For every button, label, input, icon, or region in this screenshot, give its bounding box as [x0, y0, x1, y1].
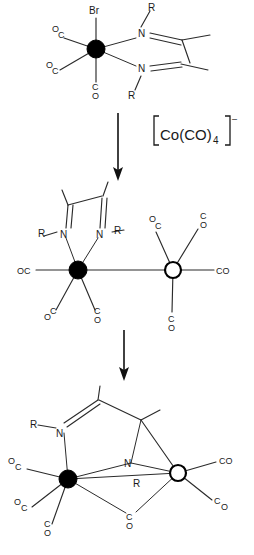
label-r-left: R — [38, 228, 45, 239]
label-c-up-left: C — [155, 221, 162, 231]
label-c-lower-left: C — [50, 306, 57, 316]
label-nitrogen-imine: N — [56, 428, 63, 439]
label-r-top: R — [30, 419, 37, 430]
label-o-3: O — [44, 528, 51, 538]
label-o-up-right: O — [200, 220, 207, 230]
reagent-label: Co(CO) 4 – — [154, 114, 237, 146]
label-r-bridge: R — [133, 478, 140, 489]
label-o-lower-right: O — [94, 315, 101, 325]
label-o-right-2: O — [221, 502, 228, 512]
label-nitrogen-right: N — [96, 229, 103, 240]
label-r-bottom: R — [128, 90, 135, 101]
reactant-diazadiene — [135, 11, 210, 90]
label-co-right-1: CO — [219, 456, 233, 466]
label-o-2: O — [14, 497, 21, 507]
scheme-canvas: Br O C O C C O N N R R Co(CO) 4 – — [0, 0, 254, 555]
label-co-oxygen-3: O — [92, 91, 99, 101]
metal-center-open — [170, 465, 186, 481]
metal-center-filled — [69, 261, 87, 279]
label-c-1: C — [15, 462, 22, 472]
reagent-formula: Co(CO) — [160, 126, 212, 143]
metal-center-filled — [87, 40, 105, 58]
label-c-2: C — [21, 503, 28, 513]
intermediate-left-bonds — [36, 238, 98, 310]
label-nitrogen-bridge: N — [124, 458, 131, 469]
arrow-1 — [113, 113, 123, 181]
label-o-bridge: O — [126, 521, 133, 531]
label-o-down: O — [168, 323, 175, 333]
label-nitrogen-left: N — [60, 229, 67, 240]
structure-reactant: Br O C O C C O N N R R — [46, 2, 210, 101]
label-nitrogen-bottom: N — [138, 63, 145, 74]
label-oc-left: OC — [17, 266, 31, 276]
label-c-right-2: C — [214, 496, 221, 506]
metal-center-open — [165, 262, 181, 278]
label-co-carbon: C — [58, 30, 65, 40]
arrow-2 — [119, 330, 129, 381]
label-r-top: R — [148, 2, 155, 13]
label-nitrogen-top: N — [138, 28, 145, 39]
structure-intermediate: R N N R OC O C C O O C C O CO C O — [17, 182, 230, 333]
reagent-subscript: 4 — [213, 135, 219, 146]
reaction-scheme-figure: Br O C O C C O N N R R Co(CO) 4 – — [0, 0, 254, 555]
metal-center-filled — [59, 470, 77, 488]
label-bromide: Br — [89, 5, 100, 16]
label-co-carbon-2: C — [52, 66, 59, 76]
structure-product: R N N R O C O C C O C O CO C O — [8, 386, 233, 538]
label-co-right: CO — [216, 266, 230, 276]
label-o-1: O — [8, 456, 15, 466]
reagent-charge: – — [232, 114, 237, 124]
label-r-right: R — [114, 225, 121, 236]
intermediate-diazadiene — [44, 182, 124, 236]
